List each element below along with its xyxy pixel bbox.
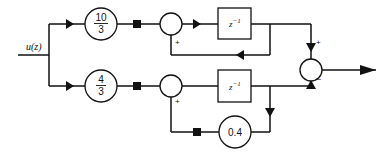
gain-block-10-3: 10 3: [85, 8, 117, 40]
svg-text:+: +: [175, 97, 180, 106]
arrow-right-icon: [193, 19, 201, 29]
sample-marker: [133, 82, 141, 90]
arrow-down-icon: [306, 43, 316, 52]
bottom-branch: 4 3 + z−1 0.4: [49, 70, 311, 148]
sample-marker: [133, 20, 141, 28]
gain-block-4-3: 4 3: [85, 70, 117, 102]
svg-text:10: 10: [95, 12, 107, 23]
arrow-left-icon: [236, 50, 244, 60]
input-label: u(z): [26, 41, 42, 53]
input-signal: u(z): [18, 24, 49, 86]
delay-block-top: z−1: [218, 8, 251, 39]
arrow-right-icon: [66, 19, 74, 29]
arrow-down-icon: [265, 108, 275, 117]
top-branch: 10 3 + z−1: [49, 8, 311, 60]
arrow-right-icon: [66, 81, 74, 91]
svg-text:3: 3: [98, 86, 104, 97]
svg-text:0.4: 0.4: [228, 127, 242, 138]
svg-text:3: 3: [98, 24, 104, 35]
sample-marker: [193, 128, 201, 136]
svg-text:4: 4: [98, 74, 104, 85]
svg-text:+: +: [316, 38, 321, 47]
gain-block-0-4: 0.4: [219, 116, 251, 148]
output-sum: + −: [300, 24, 376, 89]
block-diagram: u(z) 10 3 + z−1: [0, 0, 391, 158]
delay-block-bottom: z−1: [218, 70, 251, 102]
output-arrow-icon: [360, 65, 376, 75]
svg-text:+: +: [175, 38, 180, 47]
